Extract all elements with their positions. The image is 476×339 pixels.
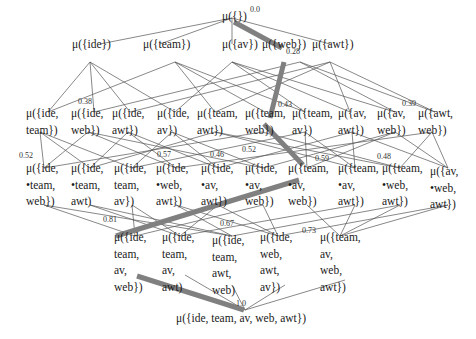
lattice-node: μ({av, web}) bbox=[377, 105, 406, 138]
score-label: 0.46 bbox=[210, 150, 224, 159]
lattice-node: μ({team, av}) bbox=[292, 105, 333, 138]
lattice-node: μ({team, •av, awt}) bbox=[338, 160, 379, 210]
lattice-node: μ({ide, team, av, web, awt}) bbox=[176, 310, 306, 327]
lattice-node: μ({awt, web}) bbox=[418, 105, 453, 138]
lattice-node: μ({ide, av}) bbox=[157, 105, 189, 138]
lattice-node: μ({team, •web, awt}) bbox=[382, 160, 423, 210]
score-label: 0.59 bbox=[315, 154, 329, 163]
lattice-node: μ({ide, •web, awt}) bbox=[156, 160, 188, 210]
lattice-node: μ({}) bbox=[222, 8, 247, 25]
lattice-node: μ({ide, team, av}) bbox=[114, 160, 146, 210]
lattice-node: μ({ide, web, awt, av}) bbox=[260, 229, 292, 295]
lattice-node: μ({ide, team, av, web}) bbox=[114, 229, 146, 295]
score-label: 0.57 bbox=[157, 150, 171, 159]
lattice-node: μ({awt}) bbox=[312, 36, 353, 53]
lattice-node: μ({team}) bbox=[143, 36, 190, 53]
lattice-node: μ({ide, team}) bbox=[26, 105, 58, 138]
score-label: 0.43 bbox=[278, 100, 292, 109]
lattice-node: μ({team, •av, web}) bbox=[288, 160, 329, 210]
score-label: 1.0 bbox=[236, 299, 246, 308]
lattice-node: μ({team, av, web, awt}) bbox=[320, 229, 361, 295]
lattice-node: μ({ide, team, awt, web) bbox=[212, 232, 244, 298]
lattice-node: μ({ide}) bbox=[72, 36, 111, 53]
lattice-node: μ({ide, team, av, awt) bbox=[162, 229, 194, 295]
score-label: 0.52 bbox=[242, 145, 256, 154]
lattice-node: μ({ide, •av, awt}) bbox=[201, 160, 233, 210]
lattice-node: μ({av}) bbox=[222, 36, 258, 53]
lattice-node: μ({av, •web, awt}) bbox=[430, 163, 459, 213]
lattice-node: μ({ide, web}) bbox=[71, 105, 103, 138]
score-label: 0.38 bbox=[78, 97, 92, 106]
score-label: 0.28 bbox=[286, 47, 300, 56]
lattice-node: μ({ide, •av, web}) bbox=[245, 160, 277, 210]
lattice-node: μ({team, web}) bbox=[245, 105, 286, 138]
lattice-node: μ({av, awt}) bbox=[338, 105, 367, 138]
score-label: 0.48 bbox=[377, 152, 391, 161]
score-label: 0.39 bbox=[402, 99, 416, 108]
lattice-node: μ({team, awt}) bbox=[197, 105, 238, 138]
score-label: 0.73 bbox=[302, 226, 316, 235]
score-label: 0.67 bbox=[220, 219, 234, 228]
score-label: 0.81 bbox=[103, 215, 117, 224]
score-label: 0.52 bbox=[19, 151, 33, 160]
lattice-node: μ({ide, •team, web}) bbox=[26, 160, 58, 210]
lattice-node: μ({ide, awt}) bbox=[112, 105, 144, 138]
lattice-node: μ({ide, •team, awt) bbox=[71, 160, 103, 210]
score-label: 0.0 bbox=[250, 5, 260, 14]
